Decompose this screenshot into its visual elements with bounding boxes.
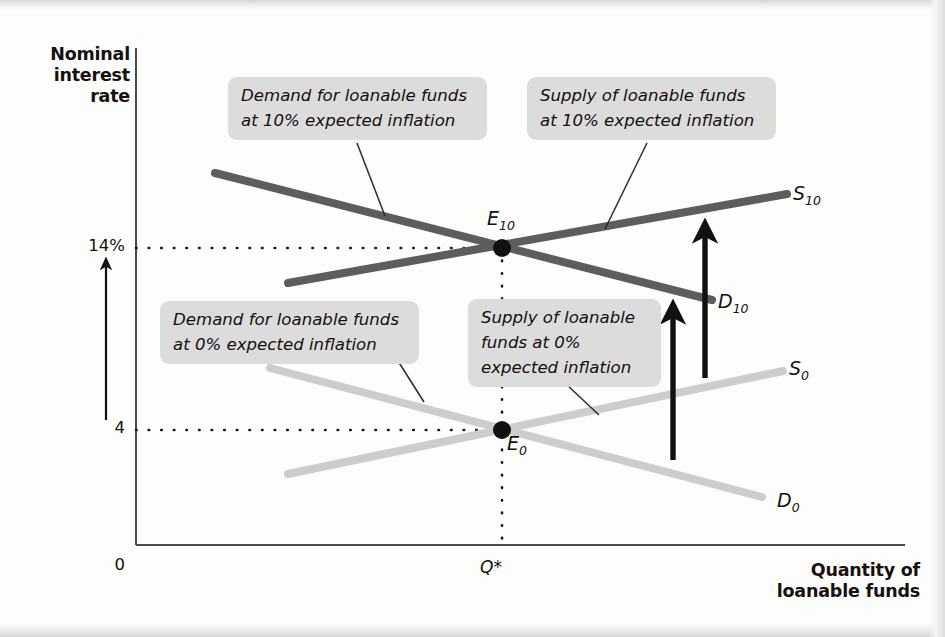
curve-label-s10: S10 [793, 182, 821, 208]
curve-label-s0-sub: 0 [801, 368, 809, 383]
equilibrium-label-e0-sub: 0 [519, 443, 527, 458]
callout-demand-10-percent: Demand for loanable funds at 10% expecte… [228, 77, 487, 140]
equilibrium-label-e10-sub: 10 [499, 218, 515, 233]
origin-label: 0 [45, 555, 125, 574]
curve-label-s10-base: S [793, 182, 805, 204]
y-tick-label-4: 4 [45, 418, 125, 437]
equilibrium-label-e0-base: E [507, 432, 519, 454]
loanable-funds-figure: Nominal interest rate Quantity of loanab… [0, 0, 945, 637]
x-tick-label-qstar: Q* [480, 557, 502, 577]
equilibrium-label-e10: E10 [487, 207, 515, 233]
y-tick-label-14: 14% [45, 236, 125, 255]
curve-label-d0-base: D [777, 489, 792, 511]
curve-label-s10-sub: 10 [805, 193, 821, 208]
shift-arrows [673, 231, 705, 460]
y-axis-title: Nominal interest rate [30, 44, 130, 107]
leader-demand-10 [357, 143, 385, 216]
curve-label-d10: D10 [718, 290, 749, 316]
guide-lines [136, 248, 502, 545]
curves-ten-inflation [215, 173, 787, 300]
equilibrium-dot-e10 [493, 239, 511, 257]
curve-label-s0: S0 [789, 357, 809, 383]
callout-supply-10-percent: Supply of loanable funds at 10% expected… [527, 77, 776, 140]
curve-label-d10-sub: 10 [733, 301, 749, 316]
equilibrium-label-e10-base: E [487, 207, 499, 229]
curve-label-d10-base: D [718, 290, 733, 312]
equilibrium-label-e0: E0 [507, 432, 527, 458]
x-axis-title: Quantity of loanable funds [690, 560, 920, 602]
curve-label-d0: D0 [777, 489, 800, 515]
curve-label-d0-sub: 0 [792, 500, 800, 515]
curve-label-s0-base: S [789, 357, 801, 379]
leader-demand-0 [398, 361, 424, 402]
callout-demand-0-percent: Demand for loanable funds at 0% expected… [160, 301, 419, 364]
callout-supply-0-percent: Supply of loanable funds at 0% expected … [468, 299, 661, 387]
